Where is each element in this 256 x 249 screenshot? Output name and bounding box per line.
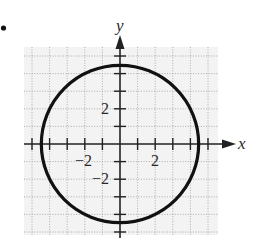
y-axis-label: y	[114, 16, 124, 35]
problem-bullet	[1, 25, 6, 30]
y-tick-label-2: 2	[101, 100, 109, 117]
x-axis-label: x	[237, 134, 246, 153]
circle-graph: x y −2 2 2 −2	[0, 0, 256, 249]
y-axis-arrow-icon	[116, 35, 125, 49]
x-tick-label-2: 2	[151, 152, 159, 169]
grid-background	[24, 47, 218, 235]
x-axis-arrow-icon	[222, 140, 236, 149]
x-tick-label-neg2: −2	[75, 152, 92, 169]
y-tick-label-neg2: −2	[92, 170, 109, 187]
